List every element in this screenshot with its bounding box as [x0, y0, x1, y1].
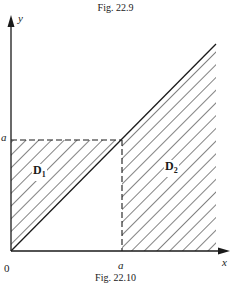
diagram-canvas	[0, 0, 231, 287]
y-tick-label-a: a	[1, 131, 7, 143]
x-tick-label-a: a	[118, 259, 124, 271]
region-d2-hatch	[122, 44, 216, 251]
y-axis-arrow-icon	[8, 15, 15, 27]
region-d1-label: D1	[32, 164, 47, 181]
x-axis-arrow-icon	[218, 248, 230, 255]
figure-caption-bottom: Fig. 22.10	[0, 272, 231, 283]
y-axis-label: y	[18, 12, 23, 24]
x-axis-label: x	[222, 256, 227, 268]
region-d2-label: D2	[164, 160, 179, 177]
